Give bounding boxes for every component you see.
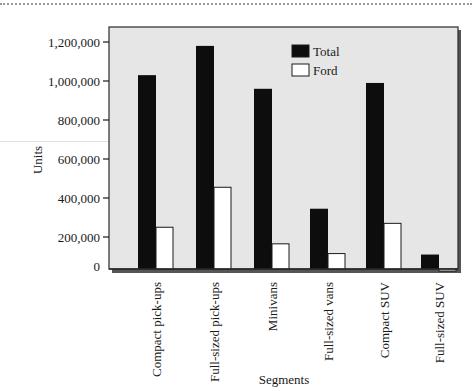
legend-swatch-total	[292, 45, 309, 57]
bar-ford	[214, 187, 231, 269]
x-category-label: Compact pick-ups	[149, 282, 164, 377]
y-tick-label: 800,000	[58, 113, 100, 128]
legend-swatch-ford	[292, 64, 309, 76]
x-category-label: Full-sized vans	[321, 282, 336, 361]
bar-chart: 0200,000400,000600,000800,0001,000,0001,…	[0, 0, 472, 391]
bar-total	[366, 83, 384, 269]
bar-ford	[156, 227, 173, 269]
x-category-label: Full-sized SUV	[432, 281, 447, 363]
bar-total	[421, 255, 439, 269]
x-category-label: Compact SUV	[377, 281, 392, 358]
x-category-label: Full-sized pick-ups	[207, 282, 222, 382]
y-axis-ticks: 0200,000400,000600,000800,0001,000,0001,…	[48, 35, 109, 274]
bar-total	[310, 209, 328, 269]
bar-total	[254, 89, 272, 269]
legend-label: Total	[313, 44, 340, 59]
x-axis-title: Segments	[259, 372, 310, 387]
legend-label: Ford	[313, 63, 338, 78]
bar-total	[138, 75, 156, 269]
y-tick-label: 1,000,000	[48, 74, 100, 89]
bar-total	[196, 46, 214, 269]
bar-ford	[384, 223, 401, 269]
x-axis-category-labels: Compact pick-upsFull-sized pick-upsMiniv…	[149, 281, 447, 382]
y-tick-label: 0	[94, 259, 101, 274]
y-tick-label: 400,000	[58, 191, 100, 206]
y-tick-label: 600,000	[58, 152, 100, 167]
bar-ford	[272, 244, 289, 269]
y-axis-title: Units	[30, 146, 45, 174]
x-category-label: Minivans	[265, 282, 280, 331]
y-tick-label: 200,000	[58, 230, 100, 245]
y-tick-label: 1,200,000	[48, 35, 100, 50]
bar-ford	[328, 254, 345, 269]
